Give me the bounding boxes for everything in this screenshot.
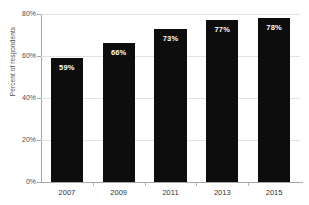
bar-value-label: 59% <box>51 63 83 72</box>
y-axis-tick-label: 60% <box>4 52 36 59</box>
x-axis-category-label: 2009 <box>93 188 145 197</box>
bar: 78% <box>258 18 290 182</box>
bar: 77% <box>206 20 238 182</box>
bar-chart: Percent of respondents 0%20%40%60%80% 59… <box>0 0 309 205</box>
bar-value-label: 78% <box>258 23 290 32</box>
y-axis-tick-label: 0% <box>4 178 36 185</box>
plot-area: 59%66%73%77%78% <box>41 14 300 182</box>
bar: 59% <box>51 58 83 182</box>
x-axis-tick <box>196 182 197 186</box>
x-axis-tick <box>93 182 94 186</box>
bar-value-label: 66% <box>103 48 135 57</box>
y-axis-tick-label: 40% <box>4 94 36 101</box>
y-axis-tick-label: 20% <box>4 136 36 143</box>
bar: 73% <box>154 29 186 182</box>
bar-value-label: 73% <box>154 34 186 43</box>
y-axis-tick-label: 80% <box>4 10 36 17</box>
gridline <box>41 14 300 15</box>
x-axis-category-label: 2007 <box>41 188 93 197</box>
x-axis-category-label: 2011 <box>145 188 197 197</box>
x-axis-category-label: 2013 <box>196 188 248 197</box>
x-axis-category-label: 2015 <box>248 188 300 197</box>
y-axis-title: Percent of respondents <box>9 2 16 122</box>
x-axis-line <box>41 182 303 183</box>
x-axis-tick <box>145 182 146 186</box>
bar-value-label: 77% <box>206 25 238 34</box>
x-axis-tick <box>248 182 249 186</box>
bar: 66% <box>103 43 135 182</box>
chart-title-cutoff <box>0 0 309 5</box>
y-axis-tick <box>37 182 41 183</box>
